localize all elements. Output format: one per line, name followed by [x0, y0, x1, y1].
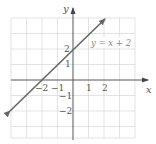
y-axis-label: y [62, 3, 69, 14]
x-axis-label: x [146, 84, 152, 95]
y-tick-label: 2 [64, 44, 70, 54]
y-tick-label: −1 [59, 91, 72, 101]
x-tick-label: 2 [102, 83, 108, 93]
x-tick-label: 1 [86, 83, 92, 93]
coordinate-plane: x y −2 −1 1 2 2 1 −1 −2 y = x + 2 [0, 0, 156, 144]
y-tick-label: −2 [59, 106, 72, 116]
y-tick-label: 1 [65, 59, 71, 69]
equation-label: y = x + 2 [90, 38, 131, 48]
